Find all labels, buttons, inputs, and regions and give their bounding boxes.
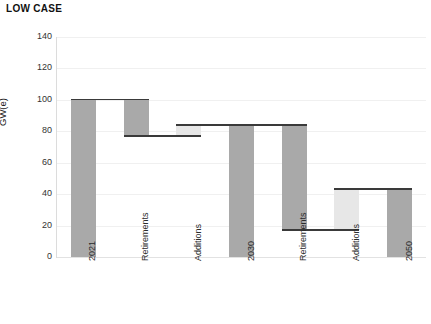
y-tick-label-140: 140 — [8, 32, 52, 41]
gridline-140 — [57, 37, 426, 38]
x-tick-label-3: 2030 — [246, 241, 256, 261]
gridline-120 — [57, 68, 426, 69]
x-axis-tick-labels: 2021RetirementsAdditions2030RetirementsA… — [57, 259, 426, 324]
connector-line-0 — [71, 99, 149, 101]
x-tick-label-0: 2021 — [87, 241, 97, 261]
bar-2021-0 — [71, 100, 96, 257]
y-tick-label-40: 40 — [8, 189, 52, 198]
y-tick-label-80: 80 — [8, 126, 52, 135]
bar-retirements-1 — [124, 100, 149, 136]
gridline-0 — [57, 257, 426, 258]
connector-line-1 — [124, 135, 202, 137]
x-tick-label-6: 2050 — [404, 241, 414, 261]
y-tick-label-60: 60 — [8, 158, 52, 167]
connector-line-4 — [282, 229, 360, 231]
x-tick-label-4: Retirements — [298, 212, 308, 261]
chart-title: LOW CASE — [6, 3, 62, 14]
connector-line-5 — [334, 188, 412, 190]
y-tick-label-100: 100 — [8, 95, 52, 104]
bar-2030-3 — [229, 125, 254, 257]
connector-line-3 — [229, 124, 307, 126]
y-axis-tick-labels: 020406080100120140 — [0, 37, 52, 257]
x-tick-label-1: Retirements — [140, 212, 150, 261]
x-tick-label-5: Additions — [351, 224, 361, 261]
y-tick-label-120: 120 — [8, 63, 52, 72]
y-tick-label-0: 0 — [8, 252, 52, 261]
x-tick-label-2: Additions — [193, 224, 203, 261]
plot-area — [57, 37, 426, 257]
y-tick-label-20: 20 — [8, 221, 52, 230]
waterfall-chart: LOW CASE GW(e) 020406080100120140 2021Re… — [0, 0, 431, 324]
